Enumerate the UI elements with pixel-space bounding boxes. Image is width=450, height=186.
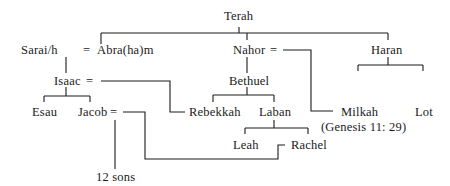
node-sarai: Sarai/h (21, 43, 58, 57)
node-rachel: Rachel (291, 138, 327, 152)
node-twelve-sons: 12 sons (96, 170, 135, 184)
node-haran: Haran (371, 43, 403, 57)
node-nahor: Nahor (233, 43, 265, 57)
node-laban: Laban (259, 105, 291, 119)
node-isaac: Isaac (54, 74, 81, 88)
marriage-sign: = (83, 43, 90, 57)
node-rebekkah: Rebekkah (189, 105, 241, 119)
node-leah: Leah (233, 138, 259, 152)
node-jacob: Jacob (78, 105, 107, 119)
node-milkah: Milkah (341, 105, 378, 119)
node-lot: Lot (415, 105, 433, 119)
marriage-sign: = (86, 74, 93, 88)
node-abraham: Abra(ha)m (97, 43, 154, 57)
marriage-sign: = (110, 105, 117, 119)
node-milkah-note: (Genesis 11: 29) (321, 120, 406, 134)
node-terah: Terah (224, 9, 253, 23)
node-esau: Esau (32, 105, 57, 119)
node-bethuel: Bethuel (229, 74, 269, 88)
tree-connector-lines (0, 0, 450, 186)
marriage-sign: = (270, 43, 277, 57)
